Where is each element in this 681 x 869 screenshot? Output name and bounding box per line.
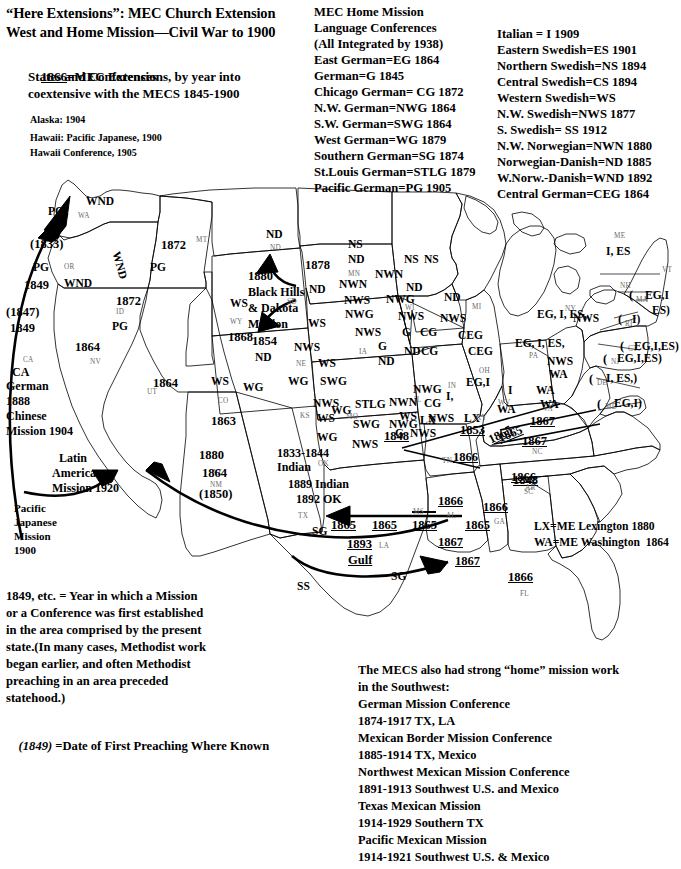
language-conf-r-item-1: Eastern Swedish=ES 1901 [497, 42, 637, 58]
mecs-line-4: Mexican Border Mission Conference [358, 730, 552, 747]
label-wi-ns: NS [404, 253, 419, 265]
label-id-1872: 1872 [116, 294, 141, 309]
label-de-paren: ( [589, 372, 593, 387]
state-abbr-nv: NV [90, 358, 101, 366]
home-mission-heading-3: (All Integrated by 1938) [314, 36, 443, 52]
label-ct-egies: EG,I,ES) [634, 340, 679, 352]
mecs-line-5: 1885-1914 TX, Mexico [358, 747, 477, 764]
first-preaching-note: (1849) =Date of First Preaching Where Kn… [6, 724, 269, 769]
language-conf-item-7: St.Louis German=STLG 1879 [314, 164, 475, 180]
label-ne-1854: 1854 [252, 334, 277, 349]
label-la-gulf: Gulf [348, 553, 372, 568]
label-al-1867: 1867 [438, 535, 463, 550]
label-mo-nws: NWS [352, 438, 378, 450]
note-line-5: preaching in an area preceded [6, 673, 168, 690]
state-abbr-ne: NE [296, 360, 306, 368]
language-conf-r-item-4: Western Swedish=WS [497, 90, 616, 106]
legend-hawaii-1: Hawaii: Pacific Japanese, 1900 [30, 131, 162, 145]
label-il-ws: WS [399, 410, 417, 422]
language-conf-r-item-6: S. Swedish= SS 1912 [497, 122, 607, 138]
label-ia-g: G [378, 340, 387, 352]
label-tn-1866: 1866 [453, 450, 478, 465]
state-abbr-mn: MN [348, 270, 360, 278]
label-ks-wg: WG [317, 431, 337, 443]
state-abbr-nd: ND [270, 244, 281, 252]
map-key-lx: LX=ME Lexington 1880 [534, 519, 655, 535]
first-preaching-year: (1849) [19, 739, 53, 753]
label-ok-1889-indian: 1889 Indian [288, 477, 349, 492]
state-abbr-sc: SC [524, 488, 533, 496]
map-page: “Here Extensions”: MEC Church Extension … [0, 0, 681, 869]
state-abbr-al: AL [446, 512, 456, 520]
state-abbr-oh: OH [479, 367, 490, 375]
note-line-4: began earlier, and often Methodist [6, 656, 191, 673]
label-mo-swg: SWG [353, 418, 380, 430]
mecs-line-0: The MECS also had strong “home” mission … [358, 662, 619, 679]
legend-alaska: Alaska: 1904 [30, 113, 85, 127]
state-abbr-ms: MS [413, 508, 424, 516]
label-nm-1850: (1850) [199, 487, 232, 502]
label-tx-sg: SG [312, 525, 327, 537]
label-wy-1868: 1868 [228, 330, 253, 345]
label-ma-egi: EG,I [645, 289, 669, 301]
label-wv-i: I [508, 384, 512, 396]
language-conf-item-0: East German=EG 1864 [314, 52, 439, 68]
state-abbr-mi: MI [472, 303, 481, 311]
state-abbr-la: LA [379, 542, 389, 550]
label-wa-wnd: WND [86, 195, 114, 207]
label-ok-indian: Indian [277, 460, 311, 475]
label-oh-ceg: CEG [458, 329, 483, 341]
label-md-egi: EG,I) [614, 397, 642, 409]
language-conf-item-8: Pacific German=PG 1905 [314, 180, 451, 196]
label-mn-nws: NWS [344, 294, 370, 306]
language-conf-r-item-3: Central Swedish=CS 1894 [497, 74, 637, 90]
label-ny-nws: NWS [573, 312, 599, 324]
label-oh-ceg2: CEG [468, 345, 493, 357]
mecs-line-10: Pacific Mexican Mission [358, 832, 487, 849]
label-in-cg: CG [421, 345, 438, 357]
language-conf-item-3: N.W. German=NWG 1864 [314, 100, 456, 116]
label-co-ws: WS [211, 375, 229, 387]
label-ky-1853: 1853 [460, 423, 485, 438]
label-wv-wa: WA [497, 403, 516, 415]
state-abbr-tn: TN [442, 457, 452, 465]
label-mi-ns: NS [424, 253, 439, 265]
label-ok-1833-1844: 1833-1844 [277, 446, 329, 461]
label-wv-wa2: WA [536, 384, 555, 396]
label-mt-pg: PG [150, 261, 166, 273]
label-sd-1880: 1880 [248, 269, 273, 284]
state-abbr-co: CO [218, 397, 229, 405]
label-black-hills-3: Mission [248, 317, 288, 332]
label-al-1866: 1866 [438, 494, 463, 509]
label-sd-nd: ND [309, 283, 326, 295]
mecs-line-11: 1914-1921 Southwest U.S. & Mexico [358, 849, 549, 866]
language-conf-item-1: German=G 1845 [314, 68, 404, 84]
label-ms-1865: 1865 [412, 518, 437, 533]
note-line-3: state.(In many cases, Methodist work [6, 639, 206, 656]
label-in-nwg: NWG [413, 383, 442, 395]
state-abbr-mt: MT [196, 236, 207, 244]
language-conf-item-2: Chicago German= CG 1872 [314, 84, 464, 100]
state-abbr-ga: GA [494, 518, 505, 526]
language-conf-r-item-8: Norwegian-Danish=ND 1885 [497, 154, 651, 170]
label-la-1865: 1865 [372, 518, 397, 533]
note-line-2: in the area comprised by the present [6, 622, 201, 639]
label-ca-chinese: Chinese [6, 409, 47, 424]
label-nc-1867: 1867 [522, 434, 547, 449]
mecs-line-6: Northwest Mexican Mission Conference [358, 764, 569, 781]
label-co-1863: 1863 [211, 414, 236, 429]
legend-hawaii-2: Hawaii Conference, 1905 [30, 146, 137, 160]
label-fl-1866: 1866 [508, 570, 533, 585]
label-sc-1866: 1866 [511, 470, 536, 485]
label-ma-es: ES) [652, 304, 670, 316]
label-md-paren: ( [597, 397, 601, 412]
label-or-1849: 1849 [24, 278, 49, 293]
label-ky-lx: LX [420, 414, 436, 426]
label-pa-egies: EG, I, ES, [515, 337, 565, 349]
label-la-sg: SG [391, 570, 406, 582]
state-abbr-wy: WY [230, 318, 243, 326]
label-il-g2: G [395, 427, 404, 439]
label-ia-nd: ND [378, 355, 395, 367]
label-pa-nws: NWS [547, 355, 573, 367]
state-abbr-in: IN [448, 382, 456, 390]
